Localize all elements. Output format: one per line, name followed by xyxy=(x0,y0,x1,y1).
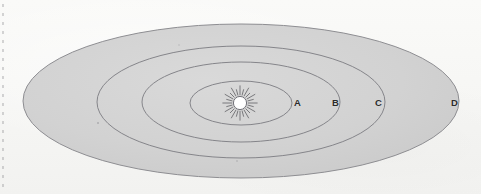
figure-canvas: A B C D xyxy=(0,0,481,194)
sun-icon xyxy=(233,96,246,109)
orbit-label-b: B xyxy=(332,98,339,108)
orbit-diagram xyxy=(0,0,481,194)
orbit-label-a: A xyxy=(294,98,301,108)
orbit-label-c: C xyxy=(375,98,382,108)
orbit-label-d: D xyxy=(451,98,458,108)
